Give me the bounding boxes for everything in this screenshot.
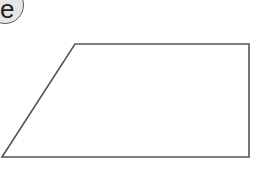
trapezoid-outline [2, 44, 249, 157]
trapezoid-figure [0, 0, 262, 174]
